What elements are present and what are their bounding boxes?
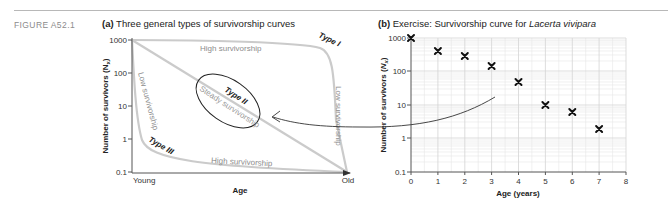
b-x-axis-label: Age (years) [496,189,540,198]
a-x-axis-label: Age [232,186,248,195]
label-low-survivorship-right: Low survivorship [334,86,343,146]
b-xtick-7: 7 [597,177,602,186]
label-low-survivorship-left: Low survivorship [136,71,160,131]
label-type1: Type I [317,31,342,49]
b-xtick-0: 0 [409,177,414,186]
figure-canvas: 1000 100 10 1 0.1 Young Old Age Number o… [0,0,668,206]
label-high-survivorship-bottom: High survivorship [211,156,273,168]
a-ytick-100: 100 [114,69,128,78]
b-xtick-1: 1 [436,177,441,186]
b-xtick-5: 5 [543,177,548,186]
b-xtick-2: 2 [463,177,468,186]
b-ytick-1: 1 [402,134,407,143]
a-ytick-1000: 1000 [109,36,127,45]
a-ytick-10: 10 [118,102,127,111]
a-xtick-young: Young [133,176,155,185]
b-xtick-8: 8 [624,177,629,186]
a-y-axis-label: Number of survivors (Nx) [101,58,111,153]
a-ytick-1: 1 [123,135,128,144]
b-ytick-0.1: 0.1 [395,168,407,177]
panel-b-chart: 1000 100 10 1 0.1 0 1 2 3 4 5 6 7 8 Age … [379,34,629,198]
b-ytick-1000: 1000 [388,34,406,43]
connector-arrowhead-icon [272,111,280,122]
panel-a-chart: 1000 100 10 1 0.1 Young Old Age Number o… [101,31,354,195]
b-ytick-100: 100 [393,67,407,76]
b-y-axis-label: Number of survivors (Nx) [379,57,389,152]
b-ytick-10: 10 [397,101,406,110]
b-xtick-3: 3 [489,177,494,186]
b-xtick-6: 6 [570,177,575,186]
label-high-survivorship-top: High survivorship [200,44,262,53]
b-xtick-4: 4 [516,177,521,186]
a-ytick-0.1: 0.1 [116,168,128,177]
a-xtick-old: Old [342,176,354,185]
